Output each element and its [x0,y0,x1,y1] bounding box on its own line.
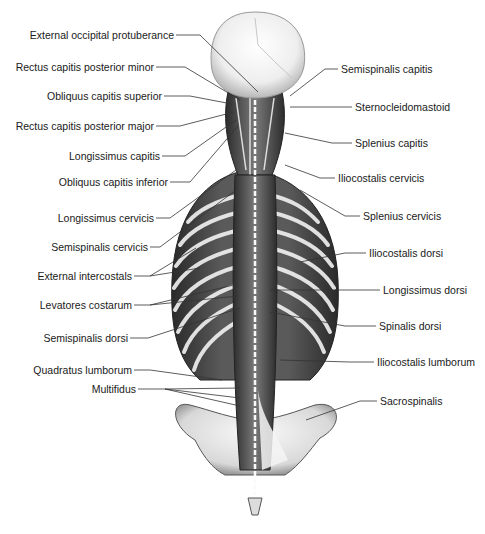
label-obliquus-capitis-inferior: Obliquus capitis inferior [59,176,168,188]
label-semispinalis-capitis: Semispinalis capitis [341,63,433,75]
back-muscles-illustration [0,0,485,534]
label-splenius-capitis: Splenius capitis [355,137,428,149]
label-semispinalis-cervicis: Semispinalis cervicis [51,241,148,253]
label-multifidus: Multifidus [92,383,136,395]
label-quadratus-lumborum: Quadratus lumborum [33,364,132,376]
label-longissimus-capitis: Longissimus capitis [69,150,160,162]
label-semispinalis-dorsi: Semispinalis dorsi [43,332,128,344]
label-sacrospinalis: Sacrospinalis [380,395,442,407]
label-longissimus-cervicis: Longissimus cervicis [58,212,154,224]
label-obliquus-capitis-superior: Obliquus capitis superior [47,90,162,102]
label-external-occipital-protuberance: External occipital protuberance [30,29,174,41]
label-levatores-costarum: Levatores costarum [40,299,132,311]
label-iliocostalis-cervicis: Iliocostalis cervicis [338,172,424,184]
label-rectus-capitis-posterior-minor: Rectus capitis posterior minor [16,61,154,73]
skull [211,12,305,98]
label-iliocostalis-dorsi: Iliocostalis dorsi [369,247,443,259]
label-sternocleidomastoid: Sternocleidomastoid [355,101,450,113]
label-splenius-cervicis: Splenius cervicis [363,210,441,222]
label-spinalis-dorsi: Spinalis dorsi [379,320,441,332]
label-iliocostalis-lumborum: Iliocostalis lumborum [377,356,475,368]
label-longissimus-dorsi: Longissimus dorsi [383,284,467,296]
label-external-intercostals: External intercostals [37,270,132,282]
label-rectus-capitis-posterior-major: Rectus capitis posterior major [16,120,154,132]
